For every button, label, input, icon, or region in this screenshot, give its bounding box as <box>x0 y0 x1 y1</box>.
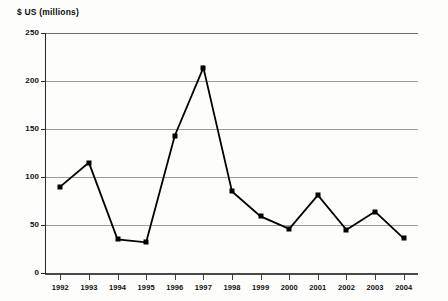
y-axis-tick <box>41 33 46 34</box>
x-axis-tick <box>89 274 90 280</box>
x-axis-tick <box>261 274 262 280</box>
data-point <box>86 160 91 165</box>
x-axis-tick <box>146 274 147 280</box>
x-axis-tick <box>404 274 405 280</box>
x-axis-tick <box>232 274 233 280</box>
data-point <box>201 65 206 70</box>
x-axis-tick <box>375 274 376 280</box>
y-axis-tick-label: 0 <box>5 268 39 277</box>
y-axis-tick-label: 250 <box>5 28 39 37</box>
y-axis-tick-labels: 050100150200250 <box>0 0 39 301</box>
data-point <box>230 189 235 194</box>
data-point <box>144 240 149 245</box>
x-axis-tick <box>118 274 119 280</box>
gridline <box>46 225 418 226</box>
y-axis-tick-label: 100 <box>5 172 39 181</box>
x-axis-tick-label: 2003 <box>367 283 384 292</box>
data-point <box>258 214 263 219</box>
x-axis-tick <box>346 274 347 280</box>
x-axis-tick <box>289 274 290 280</box>
x-axis-tick-label: 1995 <box>138 283 155 292</box>
x-axis-tick-label: 1993 <box>80 283 97 292</box>
y-axis-tick <box>41 177 46 178</box>
x-axis-tick-label: 1996 <box>166 283 183 292</box>
data-point <box>401 236 406 241</box>
data-point <box>58 184 63 189</box>
x-axis-tick <box>318 274 319 280</box>
x-axis-tick-label: 1997 <box>195 283 212 292</box>
gridline <box>46 81 418 82</box>
x-axis-tick <box>203 274 204 280</box>
y-axis-line <box>45 33 46 274</box>
x-axis-tick-label: 2002 <box>338 283 355 292</box>
data-point <box>344 227 349 232</box>
x-axis-tick <box>175 274 176 280</box>
plot-area <box>46 33 418 273</box>
x-axis-tick-label: 2000 <box>281 283 298 292</box>
x-axis-tick-label: 1994 <box>109 283 126 292</box>
y-axis-tick <box>41 225 46 226</box>
y-axis-tick <box>41 81 46 82</box>
data-point <box>287 226 292 231</box>
x-axis-tick-label: 1999 <box>252 283 269 292</box>
data-point <box>172 133 177 138</box>
gridline <box>46 177 418 178</box>
y-axis-tick <box>41 129 46 130</box>
line-chart: $ US (millions) 050100150200250 19921993… <box>0 0 448 301</box>
data-point <box>115 237 120 242</box>
gridline <box>46 33 418 34</box>
x-axis-tick-label: 2001 <box>309 283 326 292</box>
data-point <box>373 209 378 214</box>
x-axis-tick-label: 2004 <box>395 283 412 292</box>
y-axis-tick-label: 200 <box>5 76 39 85</box>
x-axis-tick-label: 1992 <box>52 283 69 292</box>
data-point <box>315 193 320 198</box>
y-axis-tick <box>41 273 46 274</box>
x-axis-tick-label: 1998 <box>223 283 240 292</box>
x-axis-tick <box>60 274 61 280</box>
gridline <box>46 129 418 130</box>
y-axis-tick-label: 150 <box>5 124 39 133</box>
y-axis-tick-label: 50 <box>5 220 39 229</box>
